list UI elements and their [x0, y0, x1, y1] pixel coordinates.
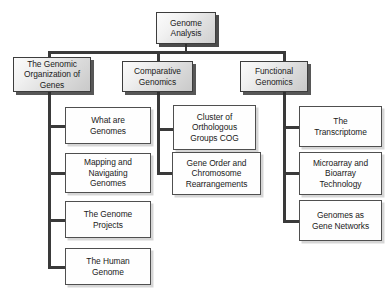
node-leaf-the-genome-projects[interactable]: The Genome Projects [65, 201, 151, 238]
connector-branch-2-stub-1 [159, 128, 173, 131]
node-leaf-what-are-genomes[interactable]: What are Genomes [65, 107, 151, 144]
node-branch-comparative-genomics[interactable]: Comparative Genomics [122, 61, 193, 92]
node-leaf-mapping-navigating-genomes-label: Mapping and Navigating Genomes [82, 157, 134, 188]
connector-branch-3-stub-2 [285, 172, 299, 175]
node-leaf-gene-order-chromosome-rearrangements-label: Gene Order and Chromosome Rearrangements [184, 158, 250, 189]
connector-branch-3-stub-3 [285, 220, 299, 223]
node-leaf-the-transcriptome[interactable]: The Transcriptome [299, 106, 382, 147]
node-leaf-mapping-navigating-genomes[interactable]: Mapping and Navigating Genomes [65, 153, 151, 193]
connector-branch-2-spine [157, 92, 160, 175]
connector-branch-1-stub-1 [50, 125, 65, 128]
connector-branch-1-stub-4 [50, 266, 65, 269]
node-branch-genomic-organization-label: The Genomic Organization of Genes [22, 59, 82, 90]
node-branch-functional-genomics-label: Functional Genomics [253, 66, 295, 87]
node-leaf-the-genome-projects-label: The Genome Projects [82, 209, 134, 230]
org-chart-diagram: Genome Analysis The Genomic Organization… [0, 0, 389, 304]
connector-branch-2-stub-2 [159, 172, 173, 175]
node-leaf-genomes-as-gene-networks-label: Genomes as Gene Networks [310, 210, 371, 231]
node-leaf-microarray-bioarray-technology[interactable]: Microarray and Bioarray Technology [299, 152, 382, 195]
connector-branch-1-spine [48, 92, 51, 269]
node-leaf-microarray-bioarray-technology-label: Microarray and Bioarray Technology [311, 158, 370, 189]
node-leaf-cluster-orthologous-groups-cog[interactable]: Cluster of Orthologous Groups COG [173, 105, 256, 150]
node-leaf-genomes-as-gene-networks[interactable]: Genomes as Gene Networks [299, 200, 382, 241]
connector-trunk-to-branch-3 [283, 51, 286, 61]
node-leaf-the-transcriptome-label: The Transcriptome [312, 116, 369, 137]
node-root-genome-analysis[interactable]: Genome Analysis [156, 12, 216, 44]
node-leaf-what-are-genomes-label: What are Genomes [88, 115, 128, 136]
node-leaf-gene-order-chromosome-rearrangements[interactable]: Gene Order and Chromosome Rearrangements [172, 152, 261, 195]
node-leaf-the-human-genome-label: The Human Genome [84, 256, 131, 277]
node-branch-genomic-organization[interactable]: The Genomic Organization of Genes [13, 57, 91, 92]
node-leaf-cluster-orthologous-groups-cog-label: Cluster of Orthologous Groups COG [188, 112, 240, 143]
connector-branch-1-stub-3 [50, 219, 65, 222]
connector-branch-3-stub-1 [285, 126, 299, 129]
node-branch-comparative-genomics-label: Comparative Genomics [132, 66, 183, 87]
connector-branch-1-stub-2 [50, 172, 65, 175]
node-leaf-the-human-genome[interactable]: The Human Genome [65, 248, 151, 285]
connector-trunk-to-branch-2 [157, 51, 160, 61]
connector-branch-3-spine [283, 92, 286, 223]
node-root-label: Genome Analysis [168, 18, 204, 39]
node-branch-functional-genomics[interactable]: Functional Genomics [240, 61, 308, 92]
connector-trunk-horizontal [49, 51, 285, 54]
